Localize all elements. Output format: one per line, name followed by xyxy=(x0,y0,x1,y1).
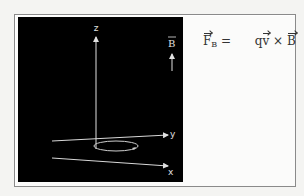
field-symbol: B xyxy=(287,34,296,48)
y-axis xyxy=(52,135,168,141)
diagram-panel: z y x B xyxy=(18,17,183,182)
x-axis xyxy=(52,158,168,166)
cross-operator: × xyxy=(273,34,283,48)
z-axis-label: z xyxy=(94,23,99,33)
b-field-label: B xyxy=(168,38,175,49)
lorentz-force-formula: FB = qv × B xyxy=(203,34,296,49)
equals-sign: = xyxy=(221,34,231,48)
y-axis-label: y xyxy=(170,129,176,139)
x-axis-label: x xyxy=(168,167,174,177)
velocity-symbol: v xyxy=(262,34,269,48)
force-symbol: F xyxy=(203,34,211,48)
force-subscript: B xyxy=(211,40,217,49)
axes-diagram: z y x B xyxy=(18,17,183,182)
orbit-path xyxy=(94,141,138,151)
